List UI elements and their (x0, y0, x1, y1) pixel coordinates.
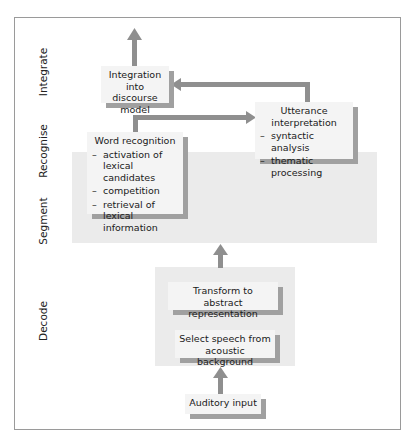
select-speech-title: Select speech from acoustic background (179, 333, 271, 368)
auditory-input-title: Auditory input (189, 397, 257, 409)
integration-title: Integration into discourse model (105, 69, 165, 115)
utterance-box: Utterance interpretation syntactic analy… (255, 102, 353, 159)
transform-title: Transform to abstract representation (172, 285, 274, 320)
flow-arrows (0, 0, 411, 440)
integration-box: Integration into discourse model (101, 66, 169, 103)
arrow-utterance-to-integration-horiz (180, 82, 310, 87)
word-recognition-item: competition (91, 185, 179, 197)
word-recognition-box: Word recognition activation of lexical c… (87, 132, 183, 214)
word-recognition-item: activation of lexical candidates (91, 149, 179, 184)
arrow-integration-out (132, 38, 137, 66)
arrowhead-up-icon (213, 367, 228, 378)
arrowhead-left-icon (171, 78, 181, 91)
auditory-input-box: Auditory input (185, 394, 261, 414)
arrowhead-up-icon (213, 244, 228, 255)
arrow-word-to-utterance-horiz (133, 115, 247, 120)
word-recognition-item: retrieval of lexical information (91, 199, 179, 234)
select-speech-box: Select speech from acoustic background (175, 330, 275, 358)
transform-box: Transform to abstract representation (168, 282, 278, 310)
utterance-item: thematic processing (259, 155, 349, 178)
word-recognition-title: Word recognition (91, 135, 179, 147)
arrowhead-up-icon (127, 28, 142, 40)
utterance-item: syntactic analysis (259, 130, 349, 153)
utterance-title: Utterance interpretation (259, 105, 349, 128)
